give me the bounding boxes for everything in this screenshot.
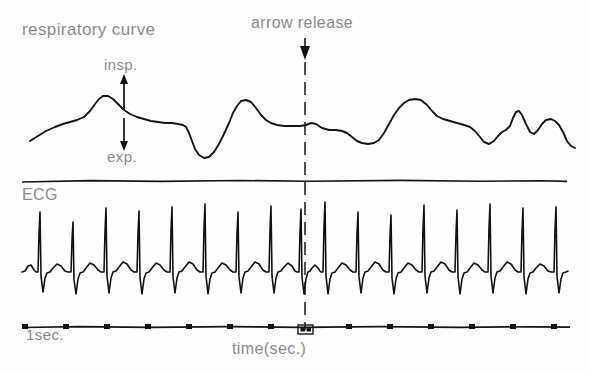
inspiration-label: insp. <box>104 56 138 73</box>
figure-background <box>0 0 590 374</box>
arrow-release-label: arrow release <box>251 14 353 32</box>
ecg-label: ECG <box>22 186 58 204</box>
physiology-recording-figure <box>0 0 590 374</box>
respiratory-curve-label: respiratory curve <box>22 20 155 40</box>
one-second-scale-label: 1sec. <box>26 326 64 343</box>
time-axis-label: time(sec.) <box>232 340 306 358</box>
expiration-label: exp. <box>107 148 137 165</box>
